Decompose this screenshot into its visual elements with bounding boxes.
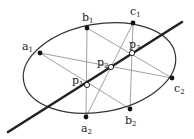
label-a2: a2 [81,122,92,136]
point-p3 [129,50,134,55]
label-c2: c2 [174,82,185,96]
label-p3: p3 [129,38,141,52]
point-p1 [84,82,89,87]
line-a2-c1 [86,23,133,117]
label-b1: b1 [82,11,94,25]
point-p2 [108,64,113,69]
label-p2: p2 [97,56,109,70]
point-a1 [38,51,43,56]
label-a1: a1 [22,40,33,54]
point-c1 [131,21,136,26]
label-c1: c1 [130,5,141,19]
pascal-theorem-diagram: a1b1c1a2b2c2p1p2p3 [0,0,194,139]
point-c2 [170,76,175,81]
diagram-canvas: a1b1c1a2b2c2p1p2p3 [0,0,194,139]
label-b2: b2 [125,114,137,128]
point-b1 [85,26,90,31]
line-a2-b1 [86,28,87,117]
line-b2-c1 [130,23,133,109]
pascal-line [8,22,182,132]
label-p1: p1 [72,74,84,88]
point-b2 [128,107,133,112]
point-a2 [84,115,89,120]
